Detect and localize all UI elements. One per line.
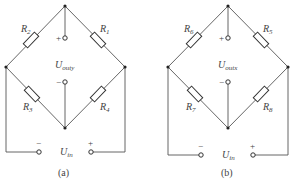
label-r8: R8 xyxy=(262,101,273,114)
input-plus-sign: + xyxy=(250,141,255,151)
resistor-r7 xyxy=(187,86,202,102)
input-voltage-label: Uin xyxy=(222,149,235,162)
output-minus-terminal xyxy=(226,80,230,84)
input-minus-terminal xyxy=(37,150,41,154)
output-minus-terminal xyxy=(63,80,67,84)
input-plus-terminal xyxy=(251,153,255,157)
node-top xyxy=(63,4,66,7)
output-voltage-label: Uoutx xyxy=(218,59,238,72)
node-bottom xyxy=(226,126,229,129)
node-left xyxy=(4,65,7,68)
label-r7: R7 xyxy=(185,101,196,114)
input-minus-sign: − xyxy=(36,138,41,148)
bridge-circuit-b: R6 R5 R7 R8 + − Uoutx − + Uin (b) xyxy=(166,4,289,179)
output-plus-terminal xyxy=(226,36,230,40)
resistor-r6 xyxy=(186,32,201,48)
resistor-r8 xyxy=(253,86,268,102)
label-r5: R5 xyxy=(262,23,273,36)
input-minus-terminal xyxy=(199,153,203,157)
input-voltage-label: Uin xyxy=(60,146,73,159)
resistor-r3 xyxy=(24,86,39,102)
resistor-r2 xyxy=(23,32,38,48)
resistor-r4 xyxy=(90,86,105,102)
bridge-circuit-a: R2 R1 R3 R4 + − Uouty − + Uin (a) xyxy=(4,4,126,179)
input-plus-terminal xyxy=(89,150,93,154)
output-plus-sign: + xyxy=(56,33,61,43)
resistor-r1 xyxy=(90,32,105,48)
label-r4: R4 xyxy=(99,101,110,114)
output-plus-sign: + xyxy=(219,33,224,43)
input-plus-sign: + xyxy=(88,138,93,148)
caption-a: (a) xyxy=(58,167,69,179)
node-left xyxy=(166,65,169,68)
resistor-r5 xyxy=(253,32,268,48)
node-bottom xyxy=(63,126,66,129)
output-minus-sign: − xyxy=(56,77,61,87)
input-minus-sign: − xyxy=(198,141,203,151)
caption-b: (b) xyxy=(221,167,233,179)
node-right xyxy=(123,65,126,68)
label-r6: R6 xyxy=(183,23,194,36)
output-voltage-label: Uouty xyxy=(55,59,75,72)
node-right xyxy=(286,65,289,68)
label-r1: R1 xyxy=(99,23,110,36)
bridge-circuits-diagram: R2 R1 R3 R4 + − Uouty − + Uin (a) R6 xyxy=(0,0,293,188)
label-r2: R2 xyxy=(20,23,31,36)
label-r3: R3 xyxy=(22,101,33,114)
output-minus-sign: − xyxy=(219,77,224,87)
output-plus-terminal xyxy=(63,36,67,40)
node-top xyxy=(226,4,229,7)
